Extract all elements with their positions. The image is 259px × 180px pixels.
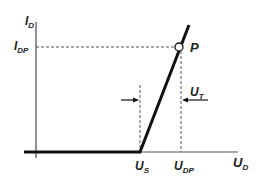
x-axis-label: UD bbox=[233, 155, 248, 172]
idp-label: IDP bbox=[14, 39, 29, 55]
udp-tick-label: UDP bbox=[174, 159, 194, 175]
y-axis-label: ID bbox=[25, 14, 34, 30]
arrow-right-icon bbox=[133, 98, 139, 103]
arrow-left-icon bbox=[182, 98, 188, 103]
operating-point-marker bbox=[175, 43, 183, 51]
point-p-label: P bbox=[190, 40, 199, 55]
diagram-canvas: ID IDP P UT US UDP UD bbox=[0, 0, 259, 180]
us-tick-label: US bbox=[135, 159, 150, 175]
ut-label: UT bbox=[190, 85, 205, 101]
characteristic-curve bbox=[24, 25, 189, 152]
iv-characteristic-diagram: ID IDP P UT US UDP UD bbox=[0, 0, 259, 180]
